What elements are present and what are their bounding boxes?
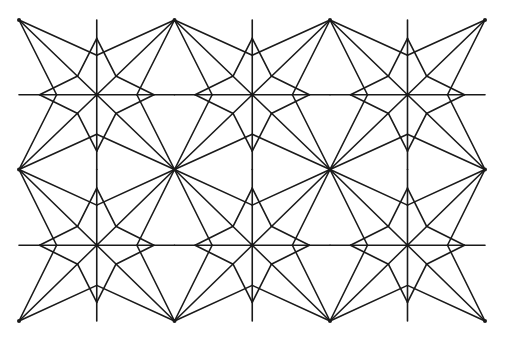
star-edge-line	[427, 95, 465, 114]
notch-line	[408, 285, 486, 321]
star-edge-line	[195, 226, 233, 245]
star-center-dot	[95, 243, 99, 247]
star-edge-line	[195, 245, 233, 264]
star-edge-line	[97, 114, 116, 152]
notch-line	[448, 95, 486, 170]
notch-line	[175, 170, 253, 206]
notch-line	[252, 20, 330, 55]
diagonal-line	[19, 170, 97, 246]
star-edge-line	[195, 95, 233, 114]
star-edge-line	[233, 114, 252, 152]
diagonal-line	[408, 170, 486, 246]
diagonal-line	[175, 245, 253, 321]
grid-vertex-dot	[173, 319, 177, 323]
notch-line	[252, 285, 330, 321]
notch-line	[19, 20, 97, 55]
star-edge-line	[389, 264, 408, 302]
diagonal-line	[97, 245, 175, 321]
notch-line	[292, 95, 330, 170]
star-edge-line	[351, 76, 389, 95]
diagonal-line	[175, 20, 253, 95]
notch-line	[175, 20, 253, 55]
notch-line	[175, 134, 253, 169]
grid-vertex-dot	[17, 319, 21, 323]
star-edge-line	[252, 264, 271, 302]
notch-line	[330, 20, 408, 55]
grid-vertex-dot	[328, 319, 332, 323]
diagonal-line	[408, 20, 486, 95]
star-edge-line	[408, 114, 427, 152]
star-center-dot	[406, 243, 410, 247]
diagonal-line	[330, 95, 408, 170]
notch-line	[448, 170, 486, 246]
notch-line	[175, 95, 213, 170]
notch-line	[19, 20, 57, 95]
notch-line	[175, 285, 253, 321]
star-center-dot	[250, 243, 254, 247]
diagonal-line	[19, 245, 97, 321]
star-edge-line	[271, 245, 309, 264]
star-edge-line	[389, 114, 408, 152]
grid-vertex-dot	[483, 168, 487, 172]
star-edge-line	[116, 76, 154, 95]
notch-line	[97, 170, 175, 206]
diagonal-line	[330, 20, 408, 95]
grid-vertex-dot	[17, 18, 21, 22]
notch-line	[19, 170, 57, 246]
notch-line	[448, 20, 486, 95]
grid-vertex-dot	[17, 168, 21, 172]
notch-line	[408, 170, 486, 206]
star-edge-line	[233, 264, 252, 302]
diagonal-line	[252, 245, 330, 321]
notch-line	[137, 95, 175, 170]
notch-line	[252, 170, 330, 206]
notch-line	[292, 170, 330, 246]
diagonal-line	[19, 20, 97, 95]
star-edge-line	[408, 264, 427, 302]
star-edge-line	[427, 76, 465, 95]
notch-line	[137, 170, 175, 246]
notch-line	[137, 20, 175, 95]
notch-line	[330, 20, 368, 95]
notch-line	[408, 134, 486, 169]
notch-line	[330, 95, 368, 170]
grid-vertex-dot	[483, 18, 487, 22]
star-edge-line	[252, 114, 271, 152]
diagonal-line	[97, 95, 175, 170]
grid-vertex-dot	[328, 168, 332, 172]
star-center-dot	[95, 93, 99, 97]
notch-line	[175, 20, 213, 95]
grid-vertex-dot	[173, 18, 177, 22]
notch-line	[292, 20, 330, 95]
diagonal-line	[97, 170, 175, 246]
grid-vertex-dot	[483, 319, 487, 323]
star-edge-line	[40, 76, 78, 95]
notch-line	[330, 285, 408, 321]
star-edge-line	[78, 264, 97, 302]
star-edge-line	[351, 226, 389, 245]
notch-line	[19, 134, 97, 169]
star-edge-line	[40, 95, 78, 114]
star-edge-line	[252, 188, 271, 226]
diagonal-line	[175, 170, 253, 246]
diagonal-line	[19, 95, 97, 170]
notch-line	[448, 245, 486, 321]
star-edge-line	[97, 38, 116, 76]
notch-line	[137, 245, 175, 321]
star-edge-line	[97, 188, 116, 226]
star-edge-line	[40, 245, 78, 264]
star-edge-line	[78, 114, 97, 152]
star-edge-line	[116, 95, 154, 114]
notch-line	[19, 170, 97, 206]
star-edge-line	[389, 188, 408, 226]
notch-line	[408, 20, 486, 55]
star-edge-line	[427, 245, 465, 264]
notch-line	[97, 20, 175, 55]
diagonal-line	[97, 20, 175, 95]
star-edge-line	[271, 95, 309, 114]
notch-line	[97, 285, 175, 321]
geometric-star-pattern	[0, 0, 505, 342]
diagonal-line	[408, 95, 486, 170]
notch-line	[330, 170, 368, 246]
star-edge-line	[427, 226, 465, 245]
